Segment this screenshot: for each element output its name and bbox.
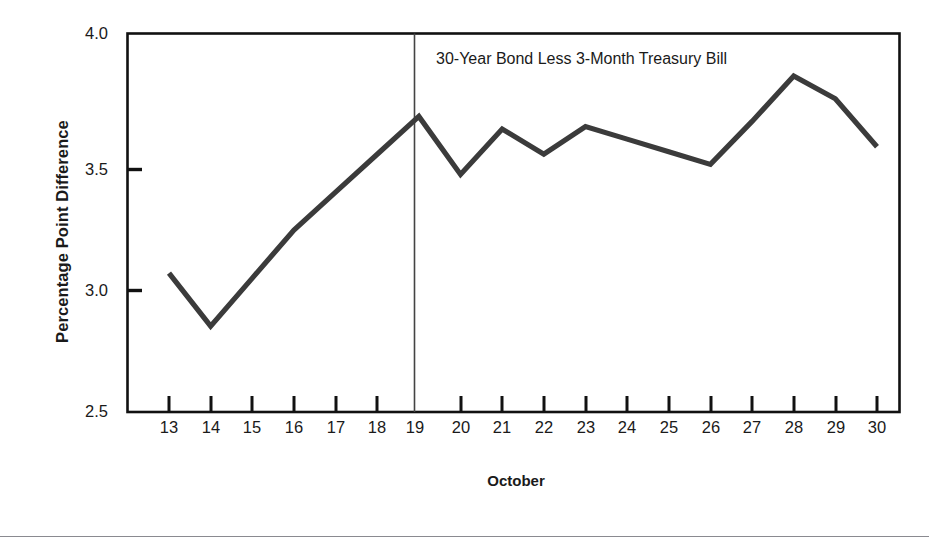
- x-tick-label-13: 13: [149, 418, 189, 437]
- x-tick-label-30: 30: [857, 418, 897, 437]
- x-tick-label-26: 26: [691, 418, 731, 437]
- x-tick-label-20: 20: [441, 418, 481, 437]
- x-tick-label-15: 15: [232, 418, 272, 437]
- x-tick-label-19: 19: [395, 418, 435, 437]
- page-bottom-rule: [0, 536, 929, 537]
- x-tick-label-22: 22: [524, 418, 564, 437]
- y-axis-title: Percentage Point Difference: [53, 82, 72, 382]
- x-tick-label-28: 28: [774, 418, 814, 437]
- x-axis-title: October: [0, 472, 929, 489]
- line-chart-canvas: [0, 0, 929, 554]
- y-axis-ticks: [127, 170, 142, 291]
- series-annotation-label: 30-Year Bond Less 3-Month Treasury Bill: [436, 50, 727, 68]
- x-tick-label-21: 21: [482, 418, 522, 437]
- x-tick-label-23: 23: [566, 418, 606, 437]
- x-tick-label-25: 25: [649, 418, 689, 437]
- x-axis-ticks: [169, 396, 877, 412]
- x-tick-label-14: 14: [191, 418, 231, 437]
- y-tick-label-4-0: 4.0: [48, 24, 108, 43]
- x-tick-label-16: 16: [274, 418, 314, 437]
- data-series-line: [169, 76, 877, 326]
- chart-figure: 4.0 3.5 3.0 2.5 13 14 15 16 17 18 19 20 …: [0, 0, 929, 554]
- x-tick-label-24: 24: [607, 418, 647, 437]
- x-tick-label-27: 27: [732, 418, 772, 437]
- x-tick-label-17: 17: [316, 418, 356, 437]
- x-tick-label-29: 29: [816, 418, 856, 437]
- y-tick-label-2-5: 2.5: [48, 402, 108, 421]
- x-tick-label-18: 18: [357, 418, 397, 437]
